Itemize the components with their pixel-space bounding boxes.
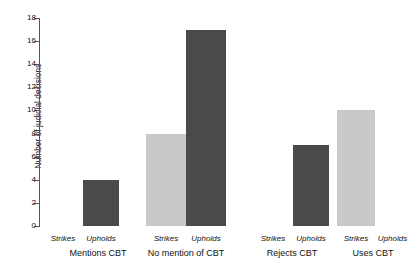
y-axis-tick-label: 14 [0,60,36,68]
y-axis-tick-label: 4 [0,176,36,184]
bar [337,110,375,226]
plot-area [40,18,411,226]
y-axis-tick-label: 8 [0,130,36,138]
bar [293,145,329,226]
x-axis-sub-label: Upholds [178,234,234,243]
y-axis-tick-label: 16 [0,37,36,45]
y-axis-tick-label: 6 [0,153,36,161]
x-axis-group-label: Uses CBT [313,248,411,259]
bar [146,134,186,226]
y-axis-tick-label: 18 [0,14,36,22]
x-axis-sub-label: Upholds [368,234,411,243]
y-axis-tick-label: 2 [0,199,36,207]
bar [83,180,119,226]
y-axis-tick-label: 12 [0,83,36,91]
bar [186,30,226,226]
bar-chart: Number of judicial decisions 18161412108… [0,0,411,268]
x-axis-sub-label: Upholds [75,234,127,243]
y-axis-tick-label: 10 [0,106,36,114]
y-axis-tick-label: 0 [0,222,36,230]
